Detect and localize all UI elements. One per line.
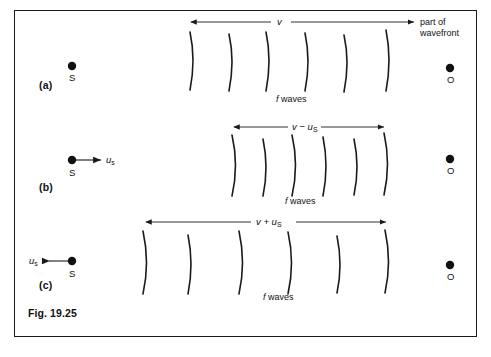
panel-a-waves-word: waves <box>281 94 307 104</box>
panel-b-waves-word: waves <box>290 196 316 206</box>
panel-b-observer-label: O <box>447 166 454 176</box>
panel-b-source-speed-sub: s <box>111 159 115 166</box>
part-of-wavefront-annotation: part of wavefront <box>420 17 459 39</box>
panel-a-arrow-label: v <box>274 17 285 27</box>
panel-b-source-label: S <box>69 168 75 178</box>
part-of-wavefront-line-2: wavefront <box>420 28 459 39</box>
panel-a-tag: (a) <box>39 80 52 91</box>
panel-c-waves-label: f waves <box>263 293 294 302</box>
panel-b-tag: (b) <box>39 182 53 193</box>
panel-c-observer-label: O <box>447 272 454 282</box>
panel-a-source-label: S <box>69 73 75 83</box>
panel-c-source-speed-label: us <box>29 256 38 267</box>
panel-c-tag: (c) <box>39 280 52 291</box>
panel-b-arrow-label-sub: S <box>313 126 318 133</box>
panel-c-source-speed-sub: s <box>34 260 38 267</box>
figure-border <box>14 10 477 337</box>
panel-a-waves-label: f waves <box>276 95 307 104</box>
panel-c-waves-word: waves <box>268 292 294 302</box>
panel-b-source-speed-label: us <box>106 155 115 166</box>
panel-c-arrow-label-sub: S <box>277 221 282 228</box>
panel-b-arrow-label: v − uS <box>289 122 321 133</box>
panel-c-arrow-label: v + uS <box>253 217 285 228</box>
panel-c-arrow-label-main: v + u <box>256 216 277 227</box>
panel-a-observer-label: O <box>447 75 454 85</box>
panel-b-waves-label: f waves <box>285 197 316 206</box>
panel-b-arrow-label-main: v − u <box>292 121 313 132</box>
figure-caption: Fig. 19.25 <box>28 308 77 319</box>
part-of-wavefront-line-1: part of <box>420 17 459 28</box>
panel-c-source-label: S <box>69 269 75 279</box>
doppler-effect-figure: v part of wavefront S O (a) f waves v − … <box>0 0 491 357</box>
